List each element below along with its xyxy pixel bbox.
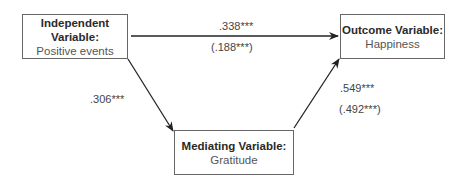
b-path-coef: .549*** [340,82,374,94]
b-path-coef-controlled: (.492***) [339,103,381,115]
independent-variable-box: Independent Variable: Positive events [22,14,128,59]
independent-variable-title: Independent Variable: [23,16,127,44]
a-path-arrow [128,59,173,131]
outcome-variable-title: Outcome Variable: [342,23,443,37]
b-path-arrow [294,59,339,128]
direct-path-coef-controlled: (.188***) [211,41,253,53]
outcome-variable-subtitle: Happiness [365,37,419,51]
mediating-variable-title: Mediating Variable: [182,139,287,153]
a-path-coef: .306*** [90,93,124,105]
mediating-variable-box: Mediating Variable: Gratitude [174,130,294,175]
outcome-variable-box: Outcome Variable: Happiness [340,14,445,59]
mediation-diagram: Independent Variable: Positive events Ou… [0,0,466,184]
independent-variable-subtitle: Positive events [36,44,113,58]
mediating-variable-subtitle: Gratitude [210,153,257,167]
direct-path-coef: .338*** [219,20,253,32]
